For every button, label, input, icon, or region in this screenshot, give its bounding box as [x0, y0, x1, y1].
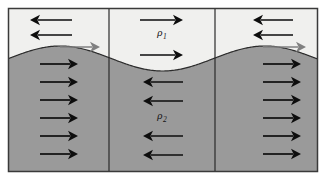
stratified-flow-diagram: ρ1ρ2	[0, 0, 327, 182]
figure-root: ρ1ρ2	[0, 0, 327, 182]
